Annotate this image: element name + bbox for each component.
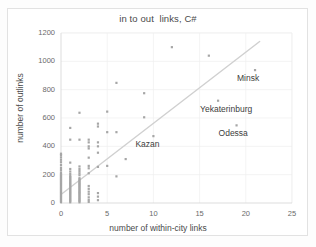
data-point [171, 46, 173, 48]
data-point [60, 164, 62, 166]
data-point [78, 168, 80, 170]
data-point [78, 174, 80, 176]
data-point [115, 82, 117, 84]
data-point [60, 167, 62, 169]
data-point [69, 127, 71, 129]
y-axis-tick-label: 600 [21, 113, 55, 122]
data-point [69, 168, 71, 170]
point-annotation: Yekaterinburg [200, 104, 252, 114]
data-point [60, 159, 62, 161]
data-point [254, 69, 256, 71]
data-point [143, 116, 145, 118]
data-point [88, 139, 90, 141]
data-point [97, 152, 99, 154]
data-point [115, 175, 117, 177]
data-point [78, 112, 80, 114]
data-point [106, 165, 108, 167]
x-axis-tick-label: 25 [277, 209, 307, 218]
data-point [88, 147, 90, 149]
data-point [88, 188, 90, 190]
y-axis-tick-label: 1200 [21, 28, 55, 37]
data-point [78, 177, 80, 179]
data-point [69, 139, 71, 141]
data-point [88, 141, 90, 143]
data-point [88, 201, 90, 203]
y-axis-tick-label: 1000 [21, 56, 55, 65]
data-point [106, 131, 108, 133]
data-point [88, 191, 90, 193]
y-axis-tick-label: 0 [21, 198, 55, 207]
data-point [235, 124, 237, 126]
x-axis-label: number of within-city links [0, 223, 316, 233]
x-axis-tick-label: 20 [231, 209, 261, 218]
point-annotation: Minsk [237, 73, 259, 83]
data-point [152, 135, 154, 137]
data-point [88, 145, 90, 147]
data-point [60, 161, 62, 163]
data-point [69, 170, 71, 172]
data-point [97, 196, 99, 198]
x-axis-tick-label: 0 [46, 209, 76, 218]
data-point [69, 173, 71, 175]
data-point [60, 153, 62, 155]
data-point [125, 158, 127, 160]
data-point [88, 199, 90, 201]
data-point [88, 172, 90, 174]
data-point [208, 55, 210, 57]
data-point [88, 196, 90, 198]
data-point [97, 192, 99, 194]
data-point [97, 199, 99, 201]
data-point [88, 157, 90, 159]
y-axis-tick-label: 200 [21, 170, 55, 179]
data-point [88, 167, 90, 169]
data-points [60, 46, 256, 203]
data-point [115, 131, 117, 133]
data-point [217, 100, 219, 102]
data-point [78, 165, 80, 167]
data-point [69, 162, 71, 164]
point-annotation: Kazan [135, 139, 159, 149]
y-axis-tick-label: 400 [21, 141, 55, 150]
x-axis-tick-label: 10 [138, 209, 168, 218]
data-point [88, 185, 90, 187]
data-point [106, 111, 108, 113]
screenshot-root: in to out links, C# number of outlinks n… [0, 0, 316, 247]
data-point [69, 175, 71, 177]
data-point [60, 169, 62, 171]
data-point [143, 92, 145, 94]
data-point [97, 141, 99, 143]
data-point [97, 145, 99, 147]
data-point [78, 139, 80, 141]
data-point [60, 171, 62, 173]
data-point [78, 172, 80, 174]
data-point [60, 156, 62, 158]
x-axis-tick-label: 5 [92, 209, 122, 218]
data-point [97, 123, 99, 125]
data-point [78, 170, 80, 172]
data-point [97, 125, 99, 127]
x-axis-tick-label: 15 [185, 209, 215, 218]
point-annotation: Odessa [219, 128, 248, 138]
data-point [88, 193, 90, 195]
data-point [88, 165, 90, 167]
chart-title: in to out links, C# [0, 13, 316, 24]
gridlines [61, 33, 292, 203]
data-point [97, 166, 99, 168]
y-axis-tick-label: 800 [21, 85, 55, 94]
